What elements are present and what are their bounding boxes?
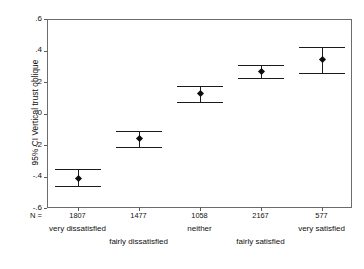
category-label: neither: [187, 224, 211, 233]
category-label: very dissatisfied: [49, 224, 106, 233]
x-axis-tick-mark: [139, 207, 140, 211]
y-axis-tick-label: -.0: [33, 108, 42, 117]
n-value: 1477: [130, 211, 146, 220]
y-axis-tick-label: .4: [35, 45, 42, 54]
y-axis-ticks: .6.4.2-.0-.2-.4-.6: [0, 19, 47, 208]
category-label: fairly dissatisfied: [109, 237, 168, 246]
n-value: 1058: [191, 211, 207, 220]
category-label: fairly satisfied: [236, 237, 284, 246]
n-value: 2167: [252, 211, 268, 220]
y-axis-tick-label: .6: [35, 14, 42, 23]
y-axis-tick-label: -.2: [33, 140, 42, 149]
category-label: very satisfied: [298, 224, 345, 233]
n-value: 1807: [69, 211, 85, 220]
n-value: 577: [315, 211, 327, 220]
x-axis-tick-mark: [78, 207, 79, 211]
y-axis-tick-label: .2: [35, 77, 42, 86]
n-values-row: 1807147710582167577: [47, 211, 352, 221]
error-bar-chart: 95% CI Vertical trust oblique .6.4.2-.0-…: [0, 0, 364, 269]
plot-frame: [47, 19, 352, 208]
x-axis-tick-mark: [322, 207, 323, 211]
n-row-label: N =: [30, 211, 42, 220]
x-axis-tick-mark: [261, 207, 262, 211]
x-axis-tick-mark: [200, 207, 201, 211]
x-axis-category-labels: very dissatisfiedfairly dissatisfiedneit…: [47, 224, 352, 264]
y-axis-tick-label: -.4: [33, 171, 42, 180]
